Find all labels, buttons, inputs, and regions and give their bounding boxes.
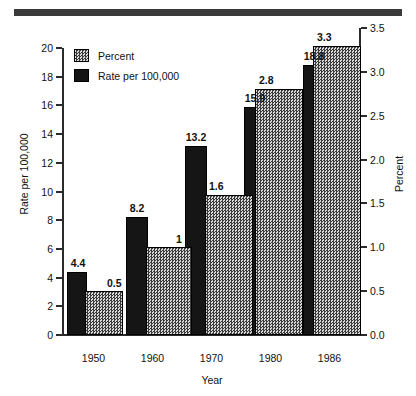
left-axis-tick [56, 191, 62, 193]
right-axis-tick [361, 202, 367, 204]
right-axis-tick [361, 159, 367, 161]
data-label-percent-1950: 0.5 [107, 278, 133, 289]
right-axis-tick [361, 246, 367, 248]
bar-percent-1960 [146, 247, 192, 335]
left-axis-tick-label: 4 [31, 273, 53, 284]
data-label-percent-1986: 3.3 [317, 32, 343, 43]
legend-label-rate: Rate per 100,000 [98, 70, 179, 82]
left-axis-tick [56, 133, 62, 135]
right-axis-tick-label: 1.0 [370, 242, 385, 253]
left-axis-line [62, 48, 64, 336]
left-axis-tick-label: 16 [31, 100, 53, 111]
left-axis-tick [56, 76, 62, 78]
legend-item-percent: Percent [74, 47, 179, 64]
right-axis-tick-label: 0.0 [370, 330, 385, 341]
left-axis-tick-label: 12 [31, 158, 53, 169]
right-axis-tick [361, 115, 367, 117]
left-axis-tick-label: 14 [31, 129, 53, 140]
left-axis-tick [56, 334, 62, 336]
bar-percent-1970 [205, 195, 253, 335]
left-axis-tick [56, 277, 62, 279]
left-axis-tick [56, 47, 62, 49]
left-axis-tick-label: 0 [31, 330, 53, 341]
left-axis-tick [56, 104, 62, 106]
data-label-rate-1970: 13.2 [179, 132, 213, 143]
left-axis-title: Rate per 100,000 [18, 119, 30, 229]
right-axis-tick [361, 290, 367, 292]
legend-label-percent: Percent [98, 50, 134, 62]
right-axis-tick-label: 2.5 [370, 111, 385, 122]
right-axis-title: Percent [393, 119, 405, 229]
bar-percent-1980 [255, 89, 303, 335]
chart-legend: Percent Rate per 100,000 [74, 47, 179, 87]
data-label-rate-1960: 8.2 [120, 203, 154, 214]
right-axis-tick-label: 3.0 [370, 67, 385, 78]
data-label-rate-1986: 18.8 [297, 51, 331, 62]
x-axis-tick-label-1970: 1970 [189, 352, 235, 364]
left-axis-tick-label: 8 [31, 215, 53, 226]
bar-percent-1950 [85, 291, 123, 335]
left-axis-tick-label: 18 [31, 72, 53, 83]
right-axis-tick-label: 2.0 [370, 155, 385, 166]
x-axis-tick-label-1986: 1986 [307, 352, 353, 364]
x-axis-tick-label-1950: 1950 [71, 352, 117, 364]
left-axis-tick [56, 305, 62, 307]
right-axis-tick [361, 334, 367, 336]
x-axis-tick-label-1980: 1980 [248, 352, 294, 364]
chart-plot-area: 024681012141618200.00.51.01.52.02.53.03.… [0, 0, 416, 396]
left-axis-tick-label: 2 [31, 301, 53, 312]
legend-swatch-percent-icon [74, 49, 89, 62]
right-axis-tick [361, 27, 367, 29]
data-label-rate-1980: 15.9 [238, 93, 272, 104]
right-axis-tick-label: 3.5 [370, 23, 385, 34]
data-label-percent-1970: 1.6 [209, 181, 235, 192]
bar-percent-1986 [313, 46, 361, 335]
left-axis-tick-label: 6 [31, 244, 53, 255]
right-axis-tick-label: 0.5 [370, 286, 385, 297]
legend-item-rate: Rate per 100,000 [74, 67, 179, 84]
bar-rate-1960 [126, 217, 148, 335]
data-label-rate-1950: 4.4 [61, 258, 95, 269]
data-label-percent-1960: 1 [176, 234, 202, 245]
x-axis-title: Year [160, 374, 264, 386]
left-axis-tick-label: 10 [31, 187, 53, 198]
left-axis-tick-label: 20 [31, 43, 53, 54]
data-label-percent-1980: 2.8 [259, 75, 285, 86]
left-axis-tick [56, 248, 62, 250]
right-axis-tick-label: 1.5 [370, 198, 385, 209]
left-axis-tick [56, 219, 62, 221]
legend-swatch-rate-icon [74, 69, 89, 82]
bar-rate-1950 [67, 272, 87, 335]
right-axis-tick [361, 71, 367, 73]
x-axis-tick-label-1960: 1960 [130, 352, 176, 364]
left-axis-tick [56, 162, 62, 164]
